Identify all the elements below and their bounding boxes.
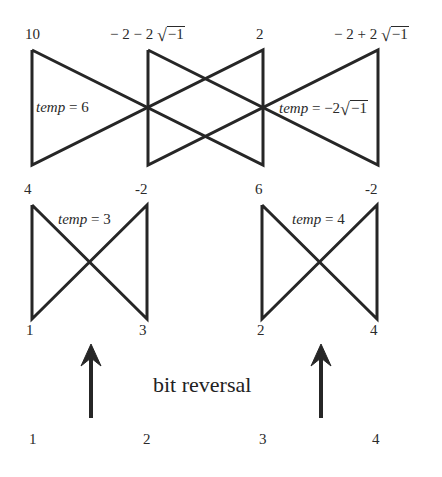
left-bottom-left-label: 1 [26,322,34,338]
right-top-left-label: 6 [255,181,263,197]
input-2: 2 [143,431,151,447]
temp-var: temp [279,100,308,116]
temp-var: temp [36,99,65,115]
temp-label-right: temp = 4 [292,211,345,227]
input-4: 4 [372,431,380,447]
top-label-4: − 2 + 2 √−1 [334,25,409,42]
top-label-2-text: − 2 − 2 [110,26,153,42]
temp-value: = 3 [87,211,110,227]
left-top-left-label: 4 [24,181,32,197]
right-bottom-right-label: 4 [370,322,378,338]
right-bottom-left-label: 2 [257,322,265,338]
temp-label-top-right: temp = −2√−1 [279,99,368,116]
temp-label-top-left: temp = 6 [36,99,89,115]
temp-value: = 4 [321,211,344,227]
temp-label-left: temp = 3 [58,211,111,227]
top-label-1: 10 [25,26,40,42]
input-3: 3 [259,431,267,447]
temp-value: = −2 [308,100,340,116]
sqrt-arg: −1 [167,26,185,42]
sqrt-arg: −1 [391,26,409,42]
left-bottom-right-label: 3 [139,322,147,338]
temp-var: temp [292,211,321,227]
right-top-right-label: -2 [365,181,378,197]
sqrt-arg: −1 [350,100,368,116]
top-label-2: − 2 − 2 √−1 [110,25,185,42]
top-label-4-text: − 2 + 2 [334,26,377,42]
input-1: 1 [29,431,37,447]
top-label-3: 2 [256,26,264,42]
butterfly-diagram-lines [0,0,442,477]
temp-var: temp [58,211,87,227]
left-top-right-label: -2 [135,181,148,197]
bit-reversal-caption: bit reversal [153,372,251,398]
temp-value: = 6 [65,99,88,115]
